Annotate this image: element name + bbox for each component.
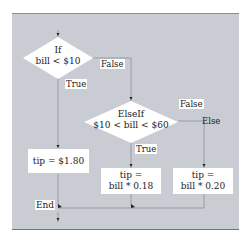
if-keyword: If xyxy=(28,45,88,56)
tip-low-box: tip = $1.80 xyxy=(28,149,89,173)
tip-low-text: tip = $1.80 xyxy=(33,156,84,167)
tip-high-line1: tip = xyxy=(192,170,215,181)
tip-mid-line1: tip = xyxy=(120,170,143,181)
else-label: Else xyxy=(202,116,220,127)
tip-high-box: tip = bill * 0.20 xyxy=(173,168,233,194)
end-label: End xyxy=(35,200,55,210)
tip-mid-box: tip = bill * 0.18 xyxy=(101,168,161,194)
if-diamond-text: If bill < $10 xyxy=(28,45,88,67)
tip-mid-line2: bill * 0.18 xyxy=(109,181,154,192)
elseif-true-label: True xyxy=(135,144,157,154)
if-true-label: True xyxy=(65,79,87,89)
tip-high-line2: bill * 0.20 xyxy=(181,181,226,192)
elseif-keyword: ElseIf xyxy=(91,109,171,120)
elseif-condition: $10 < bill < $60 xyxy=(91,120,171,131)
if-condition: bill < $10 xyxy=(28,56,88,67)
elseif-false-label: False xyxy=(179,99,204,109)
elseif-diamond-text: ElseIf $10 < bill < $60 xyxy=(91,109,171,131)
if-false-label: False xyxy=(100,59,125,69)
